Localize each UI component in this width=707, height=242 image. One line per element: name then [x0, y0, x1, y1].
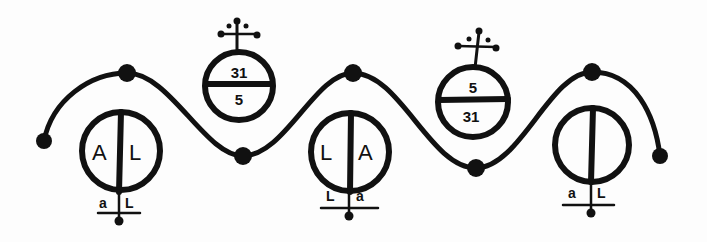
cross-dot-upper-right	[244, 24, 249, 29]
base-right-label: L	[125, 195, 134, 211]
upper-symbol-2: 5 31	[438, 28, 508, 138]
wave-node-right-end	[652, 148, 668, 164]
lower-symbol-1: A L a L	[82, 112, 160, 226]
cross-dot-right	[254, 32, 261, 39]
base-left-label: L	[326, 188, 335, 204]
bottom-value: 5	[235, 91, 243, 108]
cross-stem	[475, 32, 479, 68]
wave-node-crest-3	[583, 63, 601, 81]
wave-diagram: A L a L L A L a a L	[0, 0, 707, 242]
base-right-label: L	[597, 185, 606, 201]
cross-dot-right	[493, 45, 500, 52]
symbol-divider	[350, 113, 351, 192]
cross-dot-left	[455, 43, 462, 50]
right-letter: A	[358, 140, 373, 165]
left-letter: A	[92, 140, 107, 165]
symbol-base-dot	[115, 217, 124, 226]
wave-node-crest-1	[118, 64, 136, 82]
wave-node-left-end	[36, 133, 52, 149]
cross-dot-upper-right	[486, 38, 491, 43]
symbol-divider	[439, 99, 508, 100]
wave-node-trough-1	[234, 147, 252, 165]
bottom-value: 31	[463, 108, 480, 125]
wave-node-crest-2	[344, 64, 362, 82]
symbol-divider	[591, 108, 593, 182]
right-letter: L	[129, 140, 141, 165]
base-right-label: a	[356, 188, 364, 204]
symbol-base-dot	[345, 212, 354, 221]
cross-bar	[458, 46, 496, 47]
left-letter: L	[320, 140, 332, 165]
top-value: 5	[469, 79, 477, 96]
top-value: 31	[231, 64, 248, 81]
lower-symbol-2: L A L a	[311, 113, 389, 221]
symbol-base-dot	[587, 209, 596, 218]
wave-node-trough-2	[467, 159, 485, 177]
lower-symbol-3: a L	[555, 108, 629, 218]
diagram-canvas: A L a L L A L a a L	[0, 0, 707, 242]
cross-dot-upper-left	[227, 24, 232, 29]
cross-dot-left	[218, 31, 225, 38]
cross-dot-top	[476, 28, 483, 35]
base-left-label: a	[99, 195, 107, 211]
base-left-label: a	[568, 185, 576, 201]
cross-dot-upper-left	[467, 37, 472, 42]
upper-symbol-1: 31 5	[205, 18, 273, 121]
symbol-divider	[119, 112, 121, 192]
cross-dot-top	[234, 18, 241, 25]
